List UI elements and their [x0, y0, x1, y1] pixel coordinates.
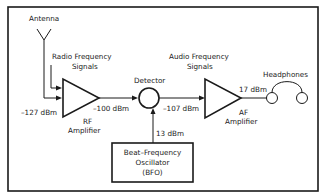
antenna-label: Antenna: [29, 14, 59, 23]
rf-output-level: –100 dBm: [93, 104, 129, 113]
detector-output-wire: [159, 96, 205, 101]
bfo-label-line1: Beat–Frequency: [124, 148, 182, 157]
rf-signal-pointer: [51, 65, 62, 91]
bfo-output-level: 13 dBm: [156, 129, 184, 138]
rf-signals-label-line1: Radio Frequency: [52, 52, 112, 61]
detector-label: Detector: [134, 76, 165, 85]
af-amplifier-label-line1: AF: [239, 108, 248, 117]
rf-input-wire: [44, 96, 62, 101]
af-amplifier-label-line2: Amplifier: [225, 117, 257, 126]
antenna-icon: [37, 29, 51, 98]
headphones-label: Headphones: [263, 70, 308, 79]
detector-symbol: [139, 88, 159, 108]
receiver-diagram: Antenna Radio Frequency Signals –127 dBm…: [0, 0, 323, 196]
rf-amplifier-label-line1: RF: [83, 117, 92, 126]
bfo-output-wire: [151, 108, 156, 143]
af-amplifier-symbol: [205, 79, 241, 118]
rf-amplifier-label-line2: Amplifier: [68, 126, 100, 135]
bfo-label-line2: Oscillator: [136, 158, 170, 167]
af-output-level: 17 dBm: [239, 85, 267, 94]
rf-input-level: –127 dBm: [21, 108, 57, 117]
rf-output-wire: [99, 96, 138, 101]
bfo-label-line3: (BFO): [142, 168, 163, 177]
headphones-icon: [267, 82, 308, 104]
detector-output-level: –107 dBm: [163, 104, 199, 113]
af-signals-label-line1: Audio Frequency: [169, 52, 230, 61]
af-signals-label-line2: Signals: [187, 62, 213, 71]
rf-signals-label-line2: Signals: [72, 62, 98, 71]
